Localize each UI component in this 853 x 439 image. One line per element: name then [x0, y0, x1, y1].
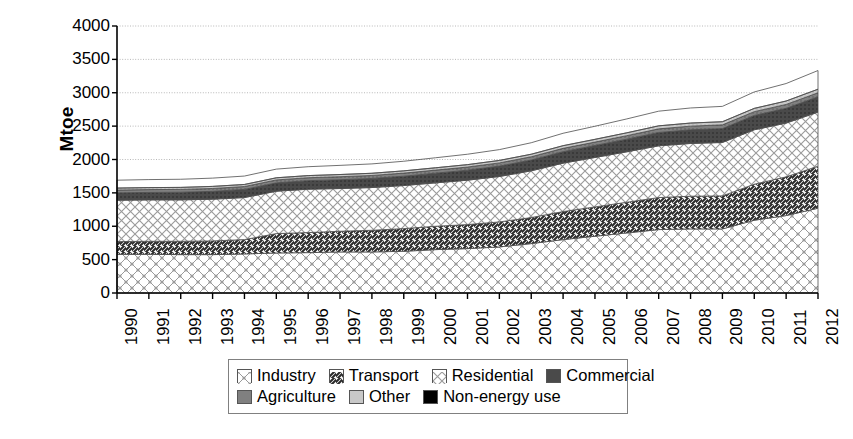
legend-item-other[interactable]: Other	[349, 388, 410, 405]
x-tick-label: 2011	[792, 310, 809, 345]
legend-label: Commercial	[566, 367, 654, 384]
x-tick-label: 2005	[601, 308, 618, 345]
x-tick-label: 1999	[410, 308, 427, 345]
x-tick-label: 1991	[155, 308, 172, 345]
x-tick-label: 2007	[665, 308, 682, 345]
x-tick-label: 2003	[537, 308, 554, 345]
legend-item-nonenergy[interactable]: Non-energy use	[423, 388, 560, 405]
legend-item-industry[interactable]: Industry	[237, 367, 316, 384]
legend-swatch-industry-icon	[237, 369, 252, 383]
legend-label: Transport	[349, 367, 419, 384]
x-tick-label: 1994	[250, 308, 267, 345]
x-tick-label: 1993	[219, 308, 236, 345]
x-tick-label: 1995	[282, 308, 299, 345]
legend-label: Residential	[452, 367, 534, 384]
x-tick-label: 1998	[378, 308, 395, 345]
legend-label: Non-energy use	[443, 388, 560, 405]
legend-item-transport[interactable]: Transport	[329, 367, 419, 384]
x-tick-label: 1992	[187, 308, 204, 345]
x-tick-label: 2012	[824, 308, 841, 345]
x-tick-label: 1997	[346, 308, 363, 345]
x-tick-label: 2006	[633, 308, 650, 345]
legend-swatch-residential-icon	[432, 369, 447, 383]
legend-item-agriculture[interactable]: Agriculture	[237, 388, 336, 405]
legend-swatch-transport-icon	[329, 369, 344, 383]
legend-swatch-commercial-icon	[546, 369, 561, 383]
x-tick-label: 2002	[505, 308, 522, 345]
x-tick-label: 1996	[314, 308, 331, 345]
legend-swatch-nonenergy-icon	[423, 390, 438, 404]
x-tick-label: 2001	[474, 308, 491, 345]
legend-swatch-agriculture-icon	[237, 390, 252, 404]
x-tick-label: 2008	[697, 308, 714, 345]
x-tick-label: 2004	[569, 308, 586, 345]
stacked-area-chart: Mtoe 40003500300025002000150010005000	[0, 0, 853, 439]
x-tick-label: 2009	[728, 308, 745, 345]
x-tick-label: 1990	[123, 308, 140, 345]
x-tick-label: 2010	[760, 308, 777, 345]
legend-item-commercial[interactable]: Commercial	[546, 367, 654, 384]
legend-row: IndustryTransportResidentialCommercial	[237, 365, 619, 386]
legend-label: Other	[369, 388, 410, 405]
legend-row: AgricultureOtherNon-energy use	[237, 386, 619, 407]
legend-item-residential[interactable]: Residential	[432, 367, 534, 384]
chart-legend: IndustryTransportResidentialCommercialAg…	[228, 359, 628, 414]
legend-label: Agriculture	[257, 388, 336, 405]
x-tick-label: 2000	[442, 308, 459, 345]
legend-swatch-other-icon	[349, 390, 364, 404]
legend-label: Industry	[257, 367, 316, 384]
